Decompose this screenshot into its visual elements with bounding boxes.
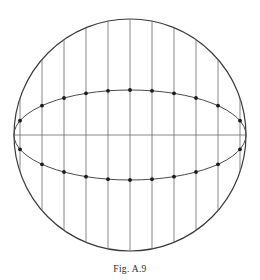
ellipse-dot-lower bbox=[62, 170, 66, 174]
ellipse-dot-lower bbox=[172, 175, 176, 179]
ellipse-dot-lower bbox=[84, 175, 88, 179]
figure-caption: Fig. A.9 bbox=[0, 264, 260, 274]
ellipse-dot-lower bbox=[18, 147, 22, 151]
ellipse-dot-upper bbox=[40, 104, 44, 108]
figure-container: Fig. A.9 bbox=[0, 0, 260, 280]
ellipse-dot-upper bbox=[106, 89, 110, 93]
ellipse-dot-lower bbox=[150, 177, 154, 181]
ellipse-dot-lower bbox=[106, 177, 110, 181]
ellipse-dot-lower bbox=[194, 170, 198, 174]
ellipse-dot-upper bbox=[172, 91, 176, 95]
ellipse-dot-lower bbox=[128, 178, 132, 182]
ellipse-dot-lower bbox=[216, 162, 220, 166]
ellipse-dot-lower bbox=[40, 162, 44, 166]
ellipse-dot-upper bbox=[84, 91, 88, 95]
ellipse-dot-upper bbox=[128, 88, 132, 92]
ellipse-dot-lower bbox=[238, 147, 242, 151]
ellipse-dot-upper bbox=[216, 104, 220, 108]
ellipse-dot-upper bbox=[194, 96, 198, 100]
ellipse-dot-upper bbox=[150, 89, 154, 93]
sphere-diagram bbox=[0, 0, 260, 280]
ellipse-dot-upper bbox=[62, 96, 66, 100]
ellipse-dot-upper bbox=[18, 119, 22, 123]
ellipse-dot-upper bbox=[238, 119, 242, 123]
